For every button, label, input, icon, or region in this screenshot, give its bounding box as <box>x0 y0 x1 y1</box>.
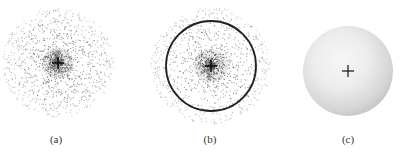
panel-c-sphere <box>303 26 393 116</box>
panel-c-label: (c) <box>342 134 354 145</box>
panel-b-dot-cloud-with-boundary <box>151 8 271 124</box>
panel-b-label: (b) <box>204 134 217 145</box>
panel-a-dot-cloud <box>3 8 114 117</box>
panel-a-label: (a) <box>50 134 62 145</box>
